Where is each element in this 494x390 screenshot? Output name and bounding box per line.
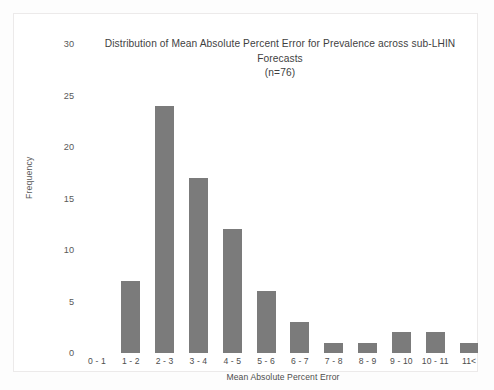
bar [223,229,242,353]
bar [257,291,276,353]
bar [392,332,411,353]
bar-slot [418,44,452,353]
x-tick-label: 2 - 3 [148,356,182,366]
bar [358,343,377,353]
y-tick-5: 5 [69,297,74,307]
x-axis-title: Mean Absolute Percent Error [80,372,486,382]
y-tick-0: 0 [69,348,74,358]
x-tick-label: 11< [452,356,486,366]
bar [324,343,343,353]
chart-page: Distribution of Mean Absolute Percent Er… [0,0,494,390]
bar-series [80,44,486,353]
bar-slot [452,44,486,353]
bar-slot [249,44,283,353]
y-tick-20: 20 [64,142,74,152]
bar-slot [148,44,182,353]
x-tick-label: 1 - 2 [114,356,148,366]
x-tick-label: 5 - 6 [249,356,283,366]
bar [426,332,445,353]
bar-slot [114,44,148,353]
x-tick-label: 10 - 11 [418,356,452,366]
bar-slot [80,44,114,353]
bar [290,322,309,353]
bar-slot [351,44,385,353]
y-tick-30: 30 [64,39,74,49]
bar-slot [384,44,418,353]
x-tick-label: 0 - 1 [80,356,114,366]
plot-area [80,44,486,353]
bar-slot [283,44,317,353]
x-axis-tick-labels: 0 - 11 - 22 - 33 - 44 - 55 - 66 - 77 - 8… [80,356,486,366]
y-tick-15: 15 [64,194,74,204]
y-axis: 30 25 20 15 10 5 0 [44,44,74,353]
x-tick-label: 6 - 7 [283,356,317,366]
y-axis-title: Frequency [24,157,34,199]
chart-frame: Distribution of Mean Absolute Percent Er… [13,13,478,372]
x-tick-label: 8 - 9 [351,356,385,366]
x-tick-label: 9 - 10 [384,356,418,366]
bar [155,106,174,353]
x-tick-label: 3 - 4 [181,356,215,366]
bar-slot [317,44,351,353]
x-tick-label: 4 - 5 [215,356,249,366]
bar-slot [181,44,215,353]
bar-slot [215,44,249,353]
bar [189,178,208,353]
bar [460,343,479,353]
bar [121,281,140,353]
x-tick-label: 7 - 8 [317,356,351,366]
y-tick-10: 10 [64,245,74,255]
y-tick-25: 25 [64,91,74,101]
